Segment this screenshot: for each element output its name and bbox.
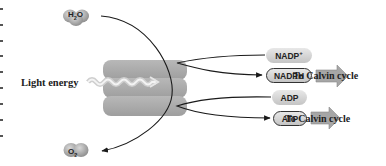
- atp-synthesis-arrow: [177, 97, 271, 118]
- calvin-cycle-label-atp: To Calvin cycle: [285, 113, 350, 124]
- light-energy-label: Light energy: [21, 77, 78, 88]
- diagram-canvas: H2O O2 Light energy NADP+ NADPH ADP ATP …: [0, 0, 386, 166]
- adp-pill: ADP: [272, 90, 307, 105]
- photosystem-complex: [103, 60, 187, 116]
- nadp-reduction-arrow: [177, 55, 265, 75]
- water-label: H2O: [68, 10, 83, 21]
- calvin-cycle-label-nadph: To Calvin cycle: [293, 70, 358, 81]
- oxygen-label: O2: [68, 147, 77, 158]
- nadp-plus-pill: NADP+: [266, 48, 312, 63]
